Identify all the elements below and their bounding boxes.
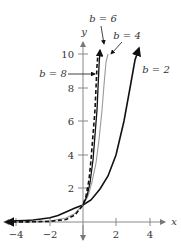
label-b2: b = 2 bbox=[142, 64, 170, 75]
y-tick-label: 4 bbox=[68, 150, 74, 161]
arrow-b6 bbox=[101, 26, 104, 44]
label-b6: b = 6 bbox=[89, 13, 117, 24]
x-tick-label: 4 bbox=[147, 229, 153, 240]
y-axis-label: y bbox=[80, 26, 87, 37]
label-b4: b = 4 bbox=[113, 30, 141, 41]
y-tick-label: 6 bbox=[68, 116, 74, 127]
exponential-chart: −4 −2 2 4 2 4 6 8 10 y x b = 6 b = 4 b =… bbox=[0, 0, 181, 251]
curve-b8 bbox=[6, 54, 98, 222]
x-axis-label: x bbox=[171, 216, 177, 227]
x-tick-label: −4 bbox=[9, 229, 24, 240]
arrow-b4 bbox=[111, 42, 122, 54]
x-tick-label: −2 bbox=[43, 229, 58, 240]
y-tick-label: 2 bbox=[68, 183, 74, 194]
y-tick-label: 8 bbox=[68, 83, 74, 94]
label-b8: b = 8 bbox=[39, 68, 67, 79]
x-tick-label: 2 bbox=[113, 229, 119, 240]
y-tick-label: 10 bbox=[61, 49, 74, 60]
